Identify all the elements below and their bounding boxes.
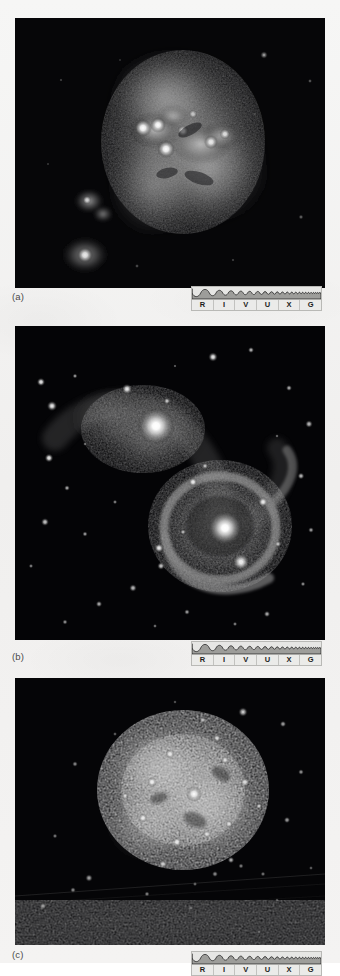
spectrum-band-labels-a: R I V U X G: [192, 299, 321, 310]
spectrum-wave-c: [192, 952, 321, 964]
sky-field-c: [15, 678, 325, 945]
band-label-v: V: [235, 655, 257, 665]
band-label-x: X: [279, 965, 301, 975]
spectrum-bar-a: R I V U X G: [191, 286, 322, 311]
band-label-g: G: [300, 655, 321, 665]
spectrum-band-labels-b: R I V U X G: [192, 654, 321, 665]
band-label-v: V: [235, 300, 257, 310]
band-label-g: G: [300, 965, 321, 975]
galaxy-a-render: [15, 18, 325, 288]
band-label-g: G: [300, 300, 321, 310]
band-label-r: R: [192, 655, 214, 665]
panel-label-a: (a): [12, 292, 24, 302]
spectrum-bar-b: R I V U X G: [191, 641, 322, 666]
spectrum-band-labels-c: R I V U X G: [192, 964, 321, 975]
spectrum-wave-a: [192, 287, 321, 299]
galaxy-b-render: [15, 326, 325, 640]
band-label-v: V: [235, 965, 257, 975]
spectrum-wave-b: [192, 642, 321, 654]
figure-panel-b: [15, 326, 325, 640]
galaxy-c-render: [15, 678, 325, 945]
band-label-u: U: [257, 300, 279, 310]
band-label-r: R: [192, 300, 214, 310]
band-label-u: U: [257, 965, 279, 975]
spectrum-bar-c: R I V U X G: [191, 951, 322, 976]
band-label-r: R: [192, 965, 214, 975]
band-label-i: I: [214, 655, 236, 665]
band-label-x: X: [279, 655, 301, 665]
band-label-u: U: [257, 655, 279, 665]
band-label-i: I: [214, 300, 236, 310]
figure-panel-c: [15, 678, 325, 945]
figure-panel-a: [15, 18, 325, 288]
panel-label-c: (c): [12, 950, 24, 960]
sky-field-a: [15, 18, 325, 288]
band-label-x: X: [279, 300, 301, 310]
sky-field-b: [15, 326, 325, 640]
panel-label-b: (b): [12, 652, 24, 662]
band-label-i: I: [214, 965, 236, 975]
